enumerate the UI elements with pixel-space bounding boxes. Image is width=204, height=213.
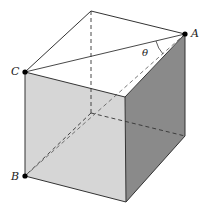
label-theta: θ bbox=[142, 48, 148, 58]
point-A bbox=[182, 31, 187, 36]
label-A: A bbox=[191, 28, 199, 39]
cube-svg bbox=[0, 0, 204, 213]
point-B bbox=[22, 173, 27, 178]
point-C bbox=[22, 69, 27, 74]
label-B: B bbox=[11, 171, 19, 182]
cube-diagram: A C B θ bbox=[0, 0, 204, 213]
label-C: C bbox=[11, 66, 19, 77]
